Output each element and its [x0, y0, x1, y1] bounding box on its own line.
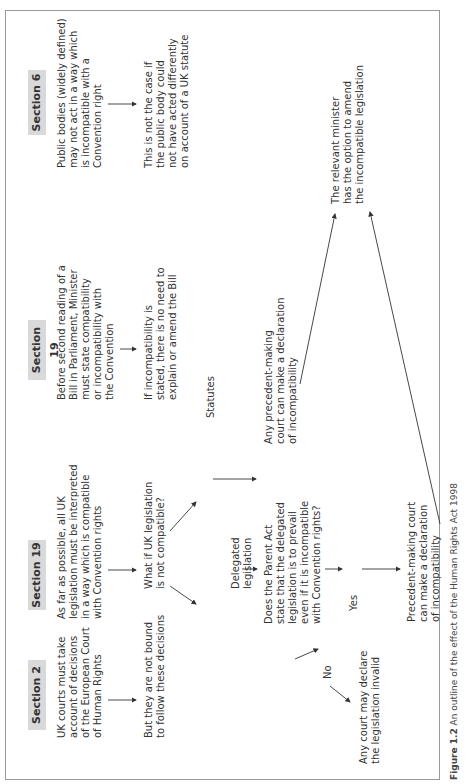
arrows-layer: [0, 0, 467, 784]
arrow-yes-outcome-to-minister: [370, 212, 440, 524]
arrow-to-delegated: [170, 586, 196, 604]
arrow-to-statutes: [170, 502, 196, 531]
rotated-diagram: Section 2 UK courts must take account of…: [0, 0, 467, 784]
arrow-no-outcome: [330, 686, 350, 702]
arrow-parent-to-no: [295, 649, 318, 659]
arrow-statutes-outcome-to-minister: [300, 214, 335, 384]
